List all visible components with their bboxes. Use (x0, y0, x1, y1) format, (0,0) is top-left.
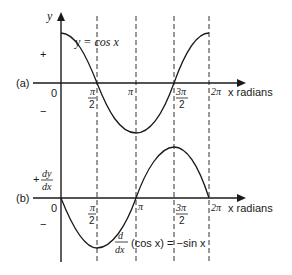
tick-a-3pi-over-2-num: 3π (175, 86, 187, 97)
tick-a-pi-over-2-den: 2 (89, 99, 95, 110)
tick-a-3pi-over-2-den: 2 (179, 99, 185, 110)
dx-curve-label: dx (115, 244, 125, 255)
tick-a-pi: π (128, 86, 134, 97)
y-axis-label: y (46, 9, 53, 23)
tick-a-pi-over-2-num: π (90, 86, 96, 97)
cos-curve-label: y = cos x (74, 35, 119, 49)
y-axis-arrow-icon (57, 12, 65, 21)
minus-sign-a: − (40, 105, 46, 117)
panel-a-label: (a) (16, 77, 29, 89)
minus-sign-b: − (40, 218, 46, 230)
derivative-diagram: y y = cos x + − (a) 0 π 2 π 3π 2 2π x ra… (0, 0, 292, 275)
dashed-guides (97, 16, 209, 262)
tick-b-pi-over-2-den: 2 (89, 215, 95, 226)
neg-sin-curve-label: (cos x) = −sin x (131, 237, 206, 249)
x-axis-b-arrow-icon (237, 194, 246, 202)
panel-b-label: (b) (16, 192, 29, 204)
tick-b-2pi: 2π (211, 202, 222, 213)
tick-b-pi: π (138, 201, 144, 212)
plus-sign-a: + (40, 48, 46, 60)
tick-b-pi-over-2-num: π (90, 202, 96, 213)
x-axis-a-label: x radians (228, 86, 273, 98)
x-axis-b-label: x radians (228, 202, 273, 214)
plus-sign-b: + (33, 173, 39, 185)
tick-b-3pi-over-2-num: 3π (175, 202, 187, 213)
origin-b: 0 (51, 202, 57, 214)
tick-a-2pi: 2π (211, 86, 222, 97)
tick-b-3pi-over-2-den: 2 (179, 215, 185, 226)
dy-label: dy (42, 168, 52, 179)
dx-label: dx (42, 181, 52, 192)
d-label: d (118, 230, 124, 241)
origin-a: 0 (51, 87, 57, 99)
